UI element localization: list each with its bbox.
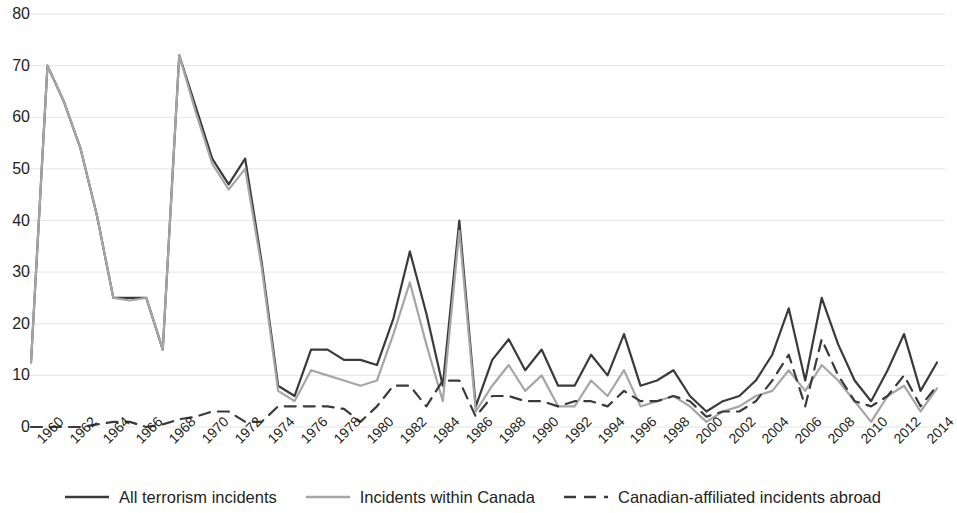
y-axis: 80706050403020100	[0, 0, 30, 440]
plot-svg	[0, 0, 945, 480]
legend-label: Incidents within Canada	[360, 489, 535, 506]
y-axis-tick-label: 10	[4, 367, 30, 383]
y-axis-tick-label: 80	[4, 6, 30, 22]
legend-swatch-line-icon	[563, 490, 609, 504]
gridlines	[23, 14, 945, 427]
y-axis-tick-label: 70	[4, 58, 30, 74]
x-axis: 1960196219641966196819701972197419761978…	[0, 430, 945, 480]
legend-item[interactable]: Incidents within Canada	[305, 489, 535, 506]
y-axis-tick-label: 20	[4, 316, 30, 332]
legend-swatch-line-icon	[305, 490, 351, 504]
series-lines	[31, 55, 937, 427]
chart-legend: All terrorism incidentsIncidents within …	[0, 481, 945, 513]
legend-label: All terrorism incidents	[119, 489, 277, 506]
y-axis-tick-label: 30	[4, 264, 30, 280]
y-axis-tick-label: 60	[4, 109, 30, 125]
y-axis-tick-label: 50	[4, 161, 30, 177]
legend-label: Canadian-affiliated incidents abroad	[618, 489, 881, 506]
plot-area: 80706050403020100	[0, 0, 945, 480]
y-axis-tick-label: 40	[4, 213, 30, 229]
legend-swatch-line-icon	[64, 490, 110, 504]
series-line-0	[31, 55, 937, 411]
legend-item[interactable]: Canadian-affiliated incidents abroad	[563, 489, 881, 506]
legend-item[interactable]: All terrorism incidents	[64, 489, 277, 506]
